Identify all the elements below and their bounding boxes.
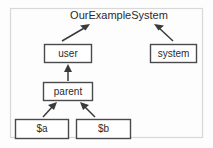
node-user[interactable]: user — [45, 45, 92, 63]
node-label: $a — [36, 123, 48, 134]
edge-line — [158, 27, 173, 41]
node-label: system — [158, 48, 190, 59]
edge-system-to-title — [154, 24, 173, 41]
node-variable-b[interactable]: $b — [77, 120, 131, 139]
edge-user-to-title — [62, 24, 90, 41]
node-variable-a[interactable]: $a — [16, 120, 69, 139]
diagram-title: OurExampleSystem — [70, 9, 168, 21]
edge-parent-to-user — [64, 64, 72, 81]
edge-b-to-parent — [80, 102, 95, 117]
arrowhead-icon — [48, 102, 57, 110]
node-label: parent — [54, 86, 83, 97]
node-system[interactable]: system — [151, 45, 197, 63]
edge-line — [62, 27, 86, 41]
object-relationship-diagram: OurExampleSystem user system parent $a $… — [0, 0, 213, 148]
node-label: user — [58, 48, 78, 59]
diagram-frame — [11, 9, 203, 138]
node-label: $b — [98, 123, 110, 134]
edge-a-to-parent — [43, 102, 57, 117]
arrowhead-icon — [154, 24, 164, 31]
arrowhead-icon — [64, 64, 72, 72]
node-parent[interactable]: parent — [44, 83, 93, 101]
diagram-canvas: OurExampleSystem user system parent $a $… — [0, 0, 213, 148]
